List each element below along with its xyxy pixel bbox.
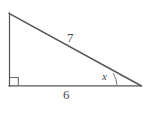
base-length-label: 6 <box>63 88 70 101</box>
angle-arc-icon <box>113 73 117 85</box>
angle-x-label: x <box>102 71 107 82</box>
triangle-diagram <box>0 0 145 113</box>
geometry-figure: 7 6 x <box>0 0 145 113</box>
right-angle-square-icon <box>10 78 18 86</box>
hypotenuse-length-label: 7 <box>67 31 74 44</box>
triangle-hypotenuse <box>9 13 142 86</box>
